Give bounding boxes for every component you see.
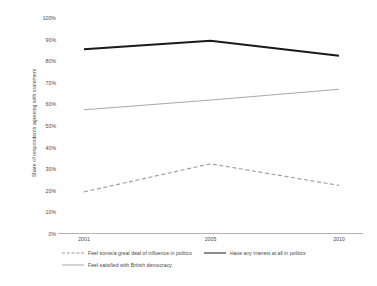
solid-black-line-icon — [204, 250, 226, 256]
legend-item-label: Have any interest at all in politics — [230, 250, 306, 256]
solid-gray-line-icon — [62, 262, 84, 268]
y-axis-tick-label: 50% — [30, 123, 56, 129]
chart-legend: Feel some/a great deal of influence in p… — [62, 250, 362, 280]
line-chart: Share of respondents agreeing with state… — [0, 0, 377, 286]
series-line-0 — [84, 164, 339, 192]
legend-item[interactable]: Feel some/a great deal of influence in p… — [62, 250, 192, 256]
x-axis-tick-label: 2005 — [205, 236, 217, 242]
legend-item[interactable]: Feel satisfied with British democracy — [62, 262, 172, 268]
y-axis-tick-label: 100% — [30, 15, 56, 21]
dashed-gray-line-icon — [62, 250, 84, 256]
legend-item[interactable]: Have any interest at all in politics — [204, 250, 306, 256]
y-axis-tick-label: 90% — [30, 37, 56, 43]
x-axis-tick-label: 2010 — [333, 236, 345, 242]
x-axis-tick-labels: 200120052010 — [58, 236, 363, 248]
y-axis-tick-labels: 0%10%20%30%40%50%60%70%80%90%100% — [30, 18, 56, 234]
series-lines — [58, 18, 363, 234]
series-line-1 — [84, 41, 339, 56]
legend-item-label: Feel some/a great deal of influence in p… — [88, 250, 192, 256]
y-axis-tick-label: 80% — [30, 58, 56, 64]
legend-item-label: Feel satisfied with British democracy — [88, 262, 172, 268]
y-axis-tick-label: 40% — [30, 145, 56, 151]
series-line-2 — [84, 89, 339, 110]
plot-area — [58, 18, 363, 234]
x-axis-tick-label: 2001 — [78, 236, 90, 242]
y-axis-tick-label: 0% — [30, 231, 56, 237]
y-axis-tick-label: 70% — [30, 80, 56, 86]
y-axis-tick-label: 10% — [30, 209, 56, 215]
y-axis-tick-label: 30% — [30, 166, 56, 172]
y-axis-tick-label: 60% — [30, 101, 56, 107]
y-axis-tick-label: 20% — [30, 188, 56, 194]
